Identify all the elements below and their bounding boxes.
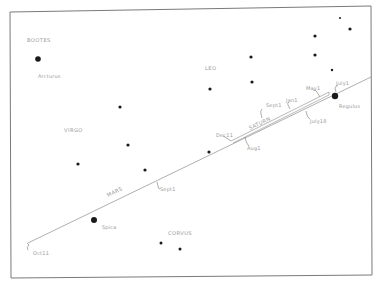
star-dot bbox=[118, 105, 121, 108]
star-label-arcturus: Arcturus bbox=[38, 73, 61, 79]
date-label-mars-sept1: Sept1 bbox=[160, 186, 176, 193]
star-dot bbox=[207, 150, 210, 153]
star-dot bbox=[313, 34, 316, 37]
star-dot bbox=[250, 80, 253, 83]
constellation-label-bootes: BOOTES bbox=[27, 37, 51, 43]
constellation-label-virgo: VIRGO bbox=[64, 127, 83, 133]
star-dot bbox=[331, 69, 333, 71]
star-label-spica: Spica bbox=[102, 224, 117, 231]
date-label-july18: July18 bbox=[309, 118, 327, 125]
planet-label-saturn: SATURN bbox=[248, 115, 272, 131]
star-label-regulus: Regulus bbox=[339, 103, 360, 110]
star-dot bbox=[208, 87, 211, 90]
star-dot bbox=[313, 53, 316, 56]
star-dot bbox=[76, 162, 79, 165]
date-tick-marks bbox=[27, 85, 338, 250]
date-label-jan1: Jan1 bbox=[285, 97, 298, 103]
chart-frame bbox=[10, 6, 372, 278]
star-regulus bbox=[332, 93, 338, 99]
date-label-oct11: Oct11 bbox=[33, 250, 49, 256]
planet-label-mars: MARS bbox=[106, 185, 123, 198]
date-label-aug1: Aug1 bbox=[247, 145, 261, 152]
star-dot bbox=[126, 143, 129, 146]
date-label-may1: May1 bbox=[306, 85, 320, 92]
ecliptic-line bbox=[28, 77, 371, 243]
star-dot bbox=[179, 248, 182, 251]
star-dot bbox=[249, 55, 252, 58]
star-chart: BOOTES LEO VIRGO CORVUS Arcturus Regulus… bbox=[0, 0, 380, 289]
star-dot bbox=[160, 242, 163, 245]
date-label-dec11: Dec11 bbox=[216, 132, 233, 138]
star-dot bbox=[143, 168, 146, 171]
date-label-july1: July1 bbox=[335, 80, 349, 87]
constellation-label-leo: LEO bbox=[205, 65, 216, 71]
star-spica bbox=[91, 217, 97, 223]
constellation-label-corvus: CORVUS bbox=[168, 230, 192, 236]
background-stars bbox=[76, 17, 351, 251]
star-dot bbox=[348, 27, 351, 30]
named-stars bbox=[35, 56, 338, 223]
star-arcturus bbox=[35, 56, 41, 62]
star-dot bbox=[339, 17, 341, 19]
date-label-saturn-sept1: Sept1 bbox=[266, 102, 282, 109]
